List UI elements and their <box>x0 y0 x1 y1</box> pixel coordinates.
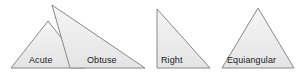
right-triangle-label: Right <box>161 55 183 65</box>
triangle-types-figure: Acute Obtuse Right Equiangular <box>0 0 298 74</box>
obtuse-triangle-label: Obtuse <box>87 55 117 65</box>
equiangular-triangle-label: Equiangular <box>227 55 276 65</box>
acute-triangle-label: Acute <box>29 55 53 65</box>
